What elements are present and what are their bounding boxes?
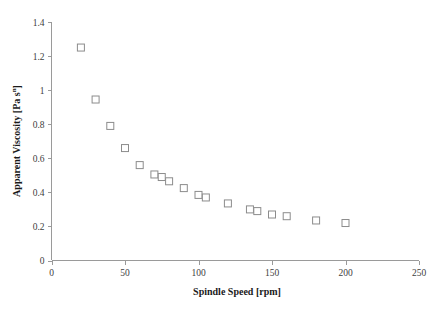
x-axis-tick-labels: 050100150200250	[49, 268, 426, 278]
data-point-marker	[122, 145, 129, 152]
data-point-marker	[313, 217, 320, 224]
data-point-marker	[107, 122, 114, 129]
x-tick-label: 150	[265, 268, 280, 278]
x-axis-ticks	[52, 261, 420, 265]
data-point-marker	[202, 194, 209, 201]
data-point-marker	[180, 185, 187, 192]
y-tick-label: 0.4	[33, 188, 45, 198]
y-tick-label: 0	[40, 256, 45, 266]
data-point-marker	[195, 191, 202, 198]
x-tick-label: 100	[191, 268, 206, 278]
y-tick-label: 0.8	[33, 120, 45, 130]
x-tick-label: 0	[49, 268, 54, 278]
data-point-marker	[77, 44, 84, 51]
scatter-plot: 00.20.40.60.811.21.4 050100150200250 Spi…	[0, 0, 435, 311]
x-tick-label: 250	[412, 268, 427, 278]
y-axis-tick-labels: 00.20.40.60.811.21.4	[33, 18, 45, 267]
y-tick-label: 1.2	[33, 52, 45, 62]
data-point-marker	[254, 208, 261, 215]
data-point-series	[77, 44, 349, 226]
y-tick-label: 0.2	[33, 222, 45, 232]
x-tick-label: 50	[120, 268, 130, 278]
data-point-marker	[342, 220, 349, 227]
data-point-marker	[224, 200, 231, 207]
y-axis-title: Apparent Viscosity [Pa sn]	[10, 85, 22, 197]
y-tick-label: 0.6	[33, 154, 45, 164]
y-tick-label: 1	[40, 86, 45, 96]
chart-figure: 00.20.40.60.811.21.4 050100150200250 Spi…	[0, 0, 435, 311]
data-point-marker	[92, 96, 99, 103]
x-axis-title: Spindle Speed [rpm]	[193, 286, 281, 297]
data-point-marker	[136, 162, 143, 169]
x-tick-label: 200	[338, 268, 353, 278]
data-point-marker	[151, 171, 158, 178]
data-point-marker	[283, 213, 290, 220]
data-point-marker	[269, 211, 276, 218]
y-axis-ticks	[48, 23, 52, 262]
data-point-marker	[158, 174, 165, 181]
data-point-marker	[166, 178, 173, 185]
data-point-marker	[246, 206, 253, 213]
y-tick-label: 1.4	[33, 18, 45, 28]
